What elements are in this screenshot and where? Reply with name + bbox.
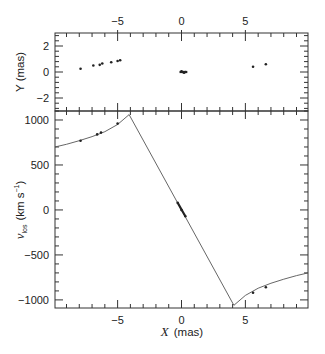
x-tick-label: 0 — [178, 314, 184, 326]
x-tick-label: 5 — [242, 314, 248, 326]
data-point — [101, 62, 104, 65]
figure: −505−202 −505−1000−50005001000 Y (mas) v… — [0, 0, 325, 354]
top-panel: −505−202 — [36, 15, 308, 111]
data-point — [79, 67, 82, 70]
x-tick-label: 5 — [242, 15, 248, 27]
y-tick-label: −2 — [36, 92, 49, 104]
data-point — [252, 66, 255, 69]
central-data-cluster — [178, 203, 186, 216]
y-tick-label: 500 — [31, 159, 49, 171]
data-point — [252, 291, 255, 294]
y-tick-label: 1000 — [25, 114, 49, 126]
bottom-panel: −505−1000−50005001000 — [18, 111, 308, 326]
xlabel-var: X — [160, 324, 170, 339]
ylabel-sup: −1 — [13, 184, 20, 192]
data-point — [92, 64, 95, 67]
data-point — [110, 61, 113, 64]
x-tick-label: 0 — [178, 15, 184, 27]
data-point — [100, 131, 103, 134]
data-point — [119, 59, 122, 62]
x-tick-label: −5 — [111, 314, 124, 326]
y-tick-label: 0 — [43, 204, 49, 216]
bottom-y-axis-label: vlos(km s−1) — [12, 181, 28, 240]
data-point — [79, 139, 82, 142]
y-tick-label: −500 — [24, 249, 49, 261]
x-tick-label: −5 — [111, 15, 124, 27]
y-tick-label: 2 — [43, 40, 49, 52]
top-ylabel-text: Y (mas) — [14, 52, 26, 92]
data-point — [98, 64, 101, 67]
ylabel-sub: los — [21, 224, 28, 233]
y-tick-label: 0 — [43, 66, 49, 78]
y-tick-label: −1000 — [18, 294, 49, 306]
data-point — [265, 63, 268, 66]
data-point — [116, 60, 119, 63]
xlabel-units: (mas) — [174, 326, 204, 338]
data-point — [265, 286, 268, 289]
bottom-ylabel-text: vlos(km s−1) — [12, 181, 28, 240]
data-point — [116, 122, 119, 125]
data-point — [96, 133, 99, 136]
xlabel-text: X(mas) — [160, 324, 204, 339]
x-axis-label: X(mas) — [160, 324, 204, 339]
ylabel-close: ) — [14, 181, 26, 185]
top-y-axis-label: Y (mas) — [14, 52, 26, 92]
ylabel-units: (km s — [14, 192, 26, 220]
